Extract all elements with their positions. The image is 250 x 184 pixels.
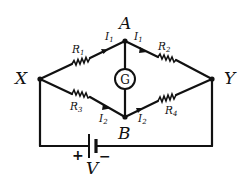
current-label-i1-left: I1 (104, 30, 114, 44)
branch-x-a (40, 41, 125, 79)
branch-x-b (40, 79, 125, 117)
wire-x-r1 (40, 64, 72, 79)
node-label-a: A (117, 13, 131, 33)
battery-label-v: V (86, 158, 100, 178)
resistor-label-r1: R1 (71, 43, 84, 57)
junction-x (37, 76, 42, 81)
galvanometer-label: G (120, 73, 130, 87)
resistor-r3 (72, 90, 90, 98)
junction-b (122, 114, 127, 119)
resistor-r1 (72, 58, 90, 66)
battery-minus-sign: − (99, 148, 111, 164)
wire-x-r3 (40, 79, 72, 94)
junction-a (122, 38, 127, 43)
current-label-i2-right: I2 (137, 112, 147, 126)
node-label-y: Y (224, 68, 237, 88)
current-label-i1-right: I1 (133, 30, 143, 44)
wire-r4-y (176, 79, 212, 95)
resistor-r2 (158, 54, 176, 62)
resistor-label-r4: R4 (164, 104, 177, 118)
wire-r2-y (176, 60, 212, 79)
current-label-i2-left: I2 (98, 112, 108, 126)
junction-y (209, 76, 214, 81)
resistor-label-r3: R3 (69, 100, 83, 114)
battery-plus-sign: + (72, 147, 84, 163)
node-label-x: X (13, 68, 28, 88)
node-label-b: B (117, 123, 131, 143)
resistor-label-r2: R2 (157, 40, 171, 54)
circuit-diagram: X A Y B R1 R2 R3 R4 I1 I1 I2 I2 G + − V (0, 0, 250, 184)
resistor-r4 (158, 94, 176, 102)
